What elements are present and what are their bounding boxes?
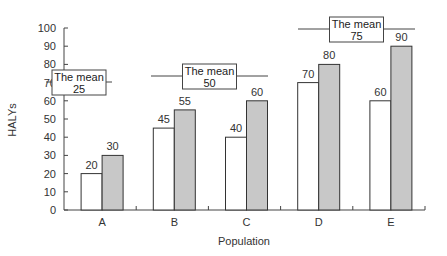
x-axis-title: Population <box>218 235 270 247</box>
y-tick-label: 30 <box>44 149 56 161</box>
bar-value-label: 90 <box>395 31 407 43</box>
mean-value: 25 <box>73 83 85 95</box>
y-tick-label: 80 <box>44 58 56 70</box>
bar-value-label: 55 <box>179 95 191 107</box>
x-tick-label: A <box>98 216 106 228</box>
y-tick-label: 100 <box>38 22 56 34</box>
bar-value-label: 45 <box>158 113 170 125</box>
y-tick-label: 0 <box>50 204 56 216</box>
bar-E-series2 <box>391 46 412 210</box>
y-tick-label: 90 <box>44 40 56 52</box>
bar-value-label: 30 <box>106 140 118 152</box>
bar-B-series1 <box>153 128 174 210</box>
mean-label: The mean <box>185 65 235 77</box>
mean-annotations: The mean25The mean50The mean75 <box>46 17 415 95</box>
y-tick-label: 60 <box>44 95 56 107</box>
y-tick-label: 20 <box>44 168 56 180</box>
mean-value: 75 <box>350 30 362 42</box>
mean-label: The mean <box>54 71 104 83</box>
bar-value-label: 20 <box>85 159 97 171</box>
bar-value-label: 40 <box>230 122 242 134</box>
bars: 20304555406070806090 <box>81 31 412 210</box>
y-tick-label: 10 <box>44 186 56 198</box>
x-tick-label: C <box>243 216 251 228</box>
y-tick-label: 50 <box>44 113 56 125</box>
bar-chart: 0102030405060708090100ABCDE 203045554060… <box>0 0 447 256</box>
bar-D-series2 <box>319 64 340 210</box>
mean-label: The mean <box>332 18 382 30</box>
bar-value-label: 70 <box>302 68 314 80</box>
y-axis-title: HALYs <box>6 103 18 137</box>
x-tick-label: B <box>171 216 178 228</box>
bar-E-series1 <box>370 101 391 210</box>
bar-C-series1 <box>226 137 247 210</box>
bar-A-series1 <box>81 174 102 210</box>
bar-B-series2 <box>174 110 195 210</box>
y-tick-label: 40 <box>44 131 56 143</box>
x-tick-label: E <box>387 216 394 228</box>
x-tick-label: D <box>315 216 323 228</box>
mean-value: 50 <box>203 77 215 89</box>
bar-value-label: 80 <box>323 49 335 61</box>
bar-C-series2 <box>247 101 268 210</box>
bar-D-series1 <box>298 83 319 210</box>
bar-A-series2 <box>102 155 123 210</box>
bar-value-label: 60 <box>251 86 263 98</box>
bar-value-label: 60 <box>374 86 386 98</box>
